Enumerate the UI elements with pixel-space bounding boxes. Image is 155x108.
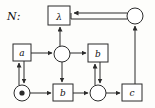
arc-a-bottomleft-double (19, 61, 24, 85)
transition-lambda[interactable]: λ (48, 6, 70, 25)
petri-net-figure: N: (0, 0, 155, 108)
transition-lambda-label: λ (55, 12, 62, 22)
transition-b-upper[interactable]: b (88, 44, 108, 62)
transition-a[interactable]: a (13, 44, 31, 61)
place-bottom-mid[interactable] (90, 85, 106, 101)
transition-c-label: c (129, 88, 134, 98)
transition-b-lower-label: b (60, 88, 66, 98)
transition-c[interactable]: c (122, 84, 142, 101)
petri-net-canvas: λ a b b c (0, 0, 155, 108)
arc-bupper-bottommid-double (95, 62, 100, 85)
transition-b-upper-label: b (95, 49, 101, 59)
place-middle[interactable] (54, 46, 70, 62)
token-dot-icon (19, 90, 24, 95)
transition-b-lower[interactable]: b (53, 84, 73, 101)
place-top-right[interactable] (127, 8, 143, 24)
transition-a-label: a (19, 48, 24, 58)
place-bottom-left[interactable] (14, 85, 30, 101)
arc-topright-to-lambda (71, 13, 127, 19)
